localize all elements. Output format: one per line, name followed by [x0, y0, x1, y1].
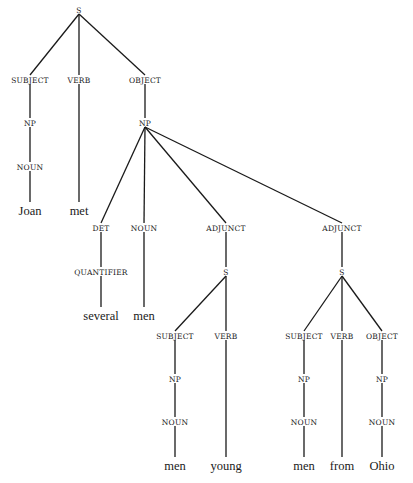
- category-node: ADJUNCT: [205, 224, 245, 233]
- leaf-word: Joan: [19, 204, 43, 218]
- tree-edge: [145, 127, 226, 223]
- category-node: VERB: [67, 76, 91, 85]
- category-node: VERB: [330, 332, 354, 341]
- leaf-word: several: [83, 309, 119, 323]
- category-node: NP: [169, 375, 181, 384]
- category-node: NOUN: [162, 418, 189, 427]
- tree-edge: [144, 127, 145, 223]
- tree-edge: [342, 276, 382, 331]
- category-node: SUBJECT: [156, 332, 194, 341]
- category-node: S: [76, 6, 81, 15]
- tree-edge: [30, 14, 79, 75]
- category-node: S: [223, 268, 228, 277]
- leaf-word: Ohio: [370, 459, 395, 473]
- category-node: NP: [298, 375, 310, 384]
- tree-edge: [175, 276, 226, 331]
- parse-tree-diagram: SSUBJECTVERBOBJECTNPNPNOUNJoanmetDETNOUN…: [0, 0, 413, 483]
- leaf-word: met: [70, 204, 89, 218]
- tree-edge: [304, 276, 342, 331]
- category-node: DET: [92, 224, 109, 233]
- leaf-word: men: [293, 459, 315, 473]
- leaf-word: young: [210, 459, 242, 473]
- leaf-word: men: [164, 459, 186, 473]
- category-node: NOUN: [131, 224, 158, 233]
- category-node: NOUN: [369, 418, 396, 427]
- category-node: QUANTIFIER: [74, 268, 128, 277]
- tree-edge: [145, 127, 342, 223]
- category-node: ADJUNCT: [321, 224, 361, 233]
- category-node: NOUN: [17, 163, 44, 172]
- category-node: SUBJECT: [285, 332, 323, 341]
- category-node: S: [339, 268, 344, 277]
- category-node: NP: [139, 119, 151, 128]
- category-node: OBJECT: [366, 332, 398, 341]
- tree-edge: [79, 14, 145, 75]
- category-node: NP: [376, 375, 388, 384]
- leaf-word: from: [330, 459, 355, 473]
- category-node: VERB: [214, 332, 238, 341]
- leaf-word: men: [133, 309, 155, 323]
- category-node: OBJECT: [129, 76, 161, 85]
- category-node: NP: [24, 119, 36, 128]
- category-node: SUBJECT: [11, 76, 49, 85]
- tree-edge: [101, 127, 145, 223]
- tree-nodes: SSUBJECTVERBOBJECTNPNPNOUNJoanmetDETNOUN…: [11, 6, 398, 473]
- category-node: NOUN: [291, 418, 318, 427]
